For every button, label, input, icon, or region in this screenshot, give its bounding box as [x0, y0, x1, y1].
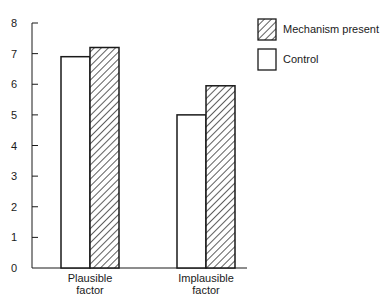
category-label: Plausible	[68, 272, 113, 284]
legend: Mechanism presentControl	[258, 19, 379, 70]
y-tick-label: 7	[11, 48, 17, 60]
y-tick-label: 5	[11, 109, 17, 121]
bar-control-0	[61, 57, 90, 268]
bar-mechanism-present-0	[90, 48, 119, 269]
legend-swatch	[258, 19, 276, 40]
y-tick-label: 0	[11, 262, 17, 274]
legend-label: Control	[283, 53, 318, 65]
category-labels: PlausiblefactorImplausiblefactor	[68, 272, 234, 296]
category-label: factor	[192, 284, 220, 296]
y-tick-label: 6	[11, 78, 17, 90]
category-label: Implausible	[178, 272, 234, 284]
y-tick-label: 4	[11, 140, 17, 152]
bars	[61, 48, 235, 269]
y-tick-label: 3	[11, 170, 17, 182]
y-axis: 012345678	[11, 17, 38, 274]
y-tick-label: 2	[11, 201, 17, 213]
y-tick-label: 8	[11, 17, 17, 29]
bar-control-1	[177, 115, 206, 268]
legend-swatch	[258, 49, 276, 70]
y-tick-label: 1	[11, 231, 17, 243]
bar-chart: 012345678 PlausiblefactorImplausiblefact…	[0, 0, 386, 304]
bar-mechanism-present-1	[206, 86, 235, 268]
legend-label: Mechanism present	[283, 23, 379, 35]
category-label: factor	[76, 284, 104, 296]
